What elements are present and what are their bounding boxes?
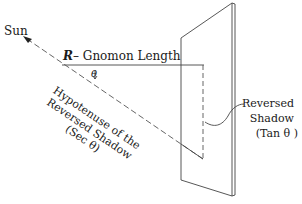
wall-panel [181,3,235,196]
sun-label: Sun [4,25,28,37]
leader-line [205,104,244,125]
theta-label: θ [91,69,97,79]
gnomon-length-label: R– Gnomon Length [63,50,181,62]
reversed-shadow-label-line3: (Tan θ ) [256,128,298,139]
gnomon-symbol: R [63,49,73,63]
hypotenuse-hidden-segment [181,144,203,159]
reversed-shadow-label-line1: Reversed [242,98,294,109]
reversed-shadow-label-line2: Shadow [250,113,294,124]
gnomon-text: – Gnomon Length [73,49,181,63]
